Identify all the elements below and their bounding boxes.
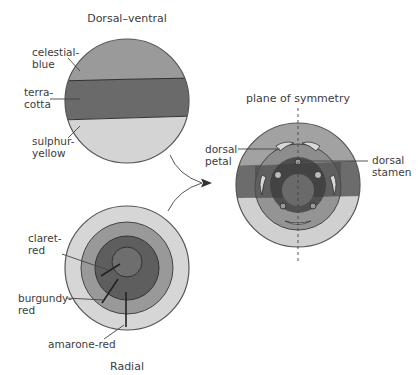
svg-text:dorsal: dorsal [372,154,404,166]
stamen-lower-left [280,203,286,209]
svg-text:claret-: claret- [28,232,62,244]
stamen-lower-right [310,203,316,209]
dorsal-ventral-circle [60,35,195,170]
plane-of-symmetry-title: plane of symmetry [246,92,350,105]
svg-text:amarone-red: amarone-red [48,338,116,350]
svg-text:petal: petal [205,155,232,167]
dorsal-ventral-title: Dorsal–ventral [87,12,167,25]
label-celestial-blue: celestial- blue [32,46,80,71]
svg-text:cotta: cotta [24,98,51,110]
radial-title: Radial [110,360,144,373]
svg-text:yellow: yellow [32,147,66,159]
stamen-right [315,172,322,179]
combined-symmetry-circle [230,108,370,262]
svg-text:stamen: stamen [372,166,411,178]
stamen-left [275,172,282,179]
svg-text:sulphur-: sulphur- [32,135,75,147]
terra-cotta-band [60,78,195,120]
floral-symmetry-diagram: Dorsal–ventral celestial- blue terra- co… [0,0,418,375]
svg-text:blue: blue [32,58,55,70]
radial-circle [65,206,189,330]
arrowhead-icon [201,179,212,188]
sulphur-yellow-region [60,116,195,170]
svg-text:terra-: terra- [24,86,53,98]
celestial-blue-region [60,35,195,83]
center-disc [112,247,142,277]
svg-text:red: red [18,304,35,316]
svg-text:red: red [28,244,45,256]
svg-text:dorsal: dorsal [205,143,237,155]
svg-text:burgundy-: burgundy- [18,292,72,304]
svg-text:celestial-: celestial- [32,46,79,58]
